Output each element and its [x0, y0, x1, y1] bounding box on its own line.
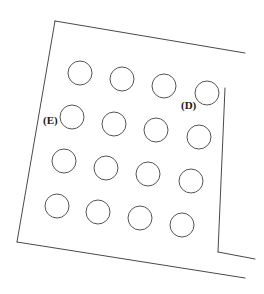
bottom-edge	[17, 242, 245, 278]
hole-r1c3	[152, 74, 176, 98]
hole-r3c4	[179, 169, 203, 193]
technical-diagram: (E)(D)	[0, 0, 264, 294]
right-edge	[218, 88, 225, 252]
hole-r2c3	[144, 118, 168, 142]
callout-e: (E)	[43, 114, 58, 127]
hole-r3c1	[52, 149, 76, 173]
hole-r2c2	[102, 112, 126, 136]
hole-r4c1	[45, 194, 69, 218]
notch-edge	[218, 252, 255, 259]
callout-d: (D)	[181, 99, 197, 112]
hole-grid	[45, 61, 219, 237]
hole-r2c4	[187, 125, 211, 149]
hole-r3c3	[136, 162, 160, 186]
top-edge	[55, 21, 245, 53]
hole-r1c2	[110, 67, 134, 91]
hole-r1c1	[68, 61, 92, 85]
hole-r4c2	[86, 200, 110, 224]
hole-r4c3	[128, 206, 152, 230]
hole-r1c4	[195, 81, 219, 105]
hole-r3c2	[94, 156, 118, 180]
plate-outline	[17, 21, 255, 278]
hole-r2c1	[60, 105, 84, 129]
left-edge	[17, 21, 55, 242]
hole-r4c4	[170, 213, 194, 237]
figure-container: (E)(D)	[0, 0, 264, 294]
